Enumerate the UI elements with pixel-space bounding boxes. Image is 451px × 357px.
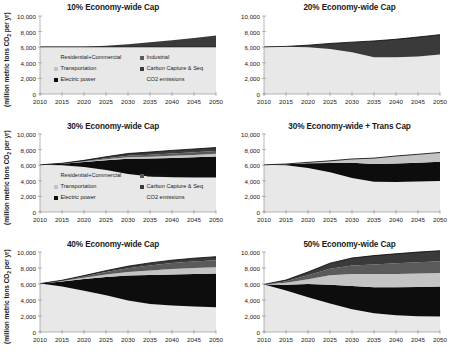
chart-panel-cap30: (million metric tons CO2 per yr)30% Econ… <box>0 119 226 237</box>
x-tick-label: 2015 <box>55 336 69 343</box>
x-tick-label: 2040 <box>389 216 403 223</box>
legend-label: CO2 emissions <box>147 195 185 201</box>
x-tick-label: 2030 <box>345 336 359 343</box>
x-tick-label: 2045 <box>411 98 425 105</box>
x-tick-label: 2020 <box>77 336 91 343</box>
legend-item: Industrial <box>140 55 169 61</box>
x-tick-label: 2030 <box>345 216 359 223</box>
chart-panel-cap50: 50% Economy-wide Cap10,0008,0006,0004,00… <box>226 237 451 357</box>
chart-panel-cap40: (million metric tons CO2 per yr)40% Econ… <box>0 237 226 357</box>
chart-legend: Residential+CommercialIndustrialTranspor… <box>54 173 220 209</box>
x-tick-label: 2015 <box>279 216 293 223</box>
x-tick-label: 2015 <box>279 98 293 105</box>
legend-label: Residential+Commercial <box>61 55 122 61</box>
x-tick-label: 2050 <box>209 98 223 105</box>
legend-swatch <box>140 56 144 60</box>
chart-legend: Residential+CommercialIndustrialTranspor… <box>54 55 220 91</box>
x-tick-label: 2045 <box>411 216 425 223</box>
x-tick-label: 2035 <box>143 216 157 223</box>
legend-swatch <box>140 67 144 71</box>
legend-item: Industrial <box>140 173 169 179</box>
x-tick-label: 2030 <box>121 216 135 223</box>
legend-swatch <box>140 174 144 178</box>
x-tick-label: 2045 <box>187 216 201 223</box>
legend-item: CO2 emissions <box>140 195 184 201</box>
legend-swatch <box>54 78 58 82</box>
legend-item: Electric power <box>54 195 96 201</box>
area-series-carbon-capture-seq <box>40 36 216 47</box>
x-tick-label: 2035 <box>367 336 381 343</box>
legend-label: Transportation <box>61 184 97 190</box>
x-tick-label: 2035 <box>367 216 381 223</box>
legend-swatch <box>140 78 144 82</box>
x-tick-label: 2035 <box>143 98 157 105</box>
x-tick-label: 2010 <box>257 336 271 343</box>
x-tick-label: 2025 <box>99 216 113 223</box>
x-tick-label: 2040 <box>165 216 179 223</box>
legend-item: Carbon Capture & Seq <box>140 184 203 190</box>
legend-label: Transportation <box>61 66 97 72</box>
x-tick-label: 2020 <box>77 98 91 105</box>
x-tick-label: 2050 <box>209 216 223 223</box>
x-tick-label: 2045 <box>411 336 425 343</box>
legend-swatch <box>54 196 58 200</box>
x-tick-label: 2035 <box>367 98 381 105</box>
legend-item: Transportation <box>54 66 96 72</box>
x-tick-label: 2020 <box>77 216 91 223</box>
legend-label: Industrial <box>147 55 170 61</box>
legend-item: Carbon Capture & Seq <box>140 66 203 72</box>
x-tick-label: 2025 <box>323 216 337 223</box>
x-tick-label: 2050 <box>433 98 447 105</box>
x-tick-label: 2010 <box>33 216 47 223</box>
x-tick-label: 2030 <box>121 336 135 343</box>
x-tick-label: 2025 <box>99 98 113 105</box>
x-tick-label: 2045 <box>187 98 201 105</box>
legend-item: Residential+Commercial <box>54 55 121 61</box>
chart-panel-cap30trans: 30% Economy-wide + Trans Cap10,0008,0006… <box>226 119 451 237</box>
x-tick-label: 2040 <box>165 98 179 105</box>
x-tick-label: 2050 <box>433 216 447 223</box>
x-tick-label: 2040 <box>389 336 403 343</box>
legend-item: Residential+Commercial <box>54 173 121 179</box>
x-tick-label: 2020 <box>301 98 315 105</box>
chart-panel-cap10: (million metric tons CO2 per yr)10% Econ… <box>0 0 226 119</box>
x-tick-label: 2020 <box>301 336 315 343</box>
x-tick-label: 2025 <box>323 98 337 105</box>
legend-label: Electric power <box>61 77 96 83</box>
legend-swatch <box>54 56 58 60</box>
x-tick-label: 2020 <box>301 216 315 223</box>
legend-label: CO2 emissions <box>147 77 185 83</box>
legend-swatch <box>140 185 144 189</box>
x-tick-label: 2015 <box>279 336 293 343</box>
x-tick-label: 2050 <box>433 336 447 343</box>
legend-label: Industrial <box>147 173 170 179</box>
x-tick-label: 2010 <box>257 216 271 223</box>
x-tick-label: 2040 <box>389 98 403 105</box>
legend-swatch <box>140 196 144 200</box>
legend-label: Electric power <box>61 195 96 201</box>
x-tick-label: 2035 <box>143 336 157 343</box>
x-tick-label: 2010 <box>33 98 47 105</box>
legend-swatch <box>54 185 58 189</box>
figure-panel-grid: (million metric tons CO2 per yr)10% Econ… <box>0 0 451 357</box>
chart-panel-cap20: 20% Economy-wide Cap10,0008,0006,0004,00… <box>226 0 451 119</box>
legend-label: Residential+Commercial <box>61 173 122 179</box>
x-tick-label: 2030 <box>121 98 135 105</box>
x-tick-label: 2015 <box>55 216 69 223</box>
x-tick-label: 2015 <box>55 98 69 105</box>
legend-item: CO2 emissions <box>140 77 184 83</box>
x-tick-label: 2025 <box>323 336 337 343</box>
legend-swatch <box>54 174 58 178</box>
x-tick-label: 2025 <box>99 336 113 343</box>
x-tick-label: 2040 <box>165 336 179 343</box>
x-tick-label: 2030 <box>345 98 359 105</box>
legend-item: Transportation <box>54 184 96 190</box>
x-tick-label: 2010 <box>257 98 271 105</box>
legend-item: Electric power <box>54 77 96 83</box>
legend-label: Carbon Capture & Seq <box>147 184 204 190</box>
x-tick-label: 2050 <box>209 336 223 343</box>
legend-swatch <box>54 67 58 71</box>
x-tick-label: 2045 <box>187 336 201 343</box>
x-tick-label: 2010 <box>33 336 47 343</box>
legend-label: Carbon Capture & Seq <box>147 66 204 72</box>
